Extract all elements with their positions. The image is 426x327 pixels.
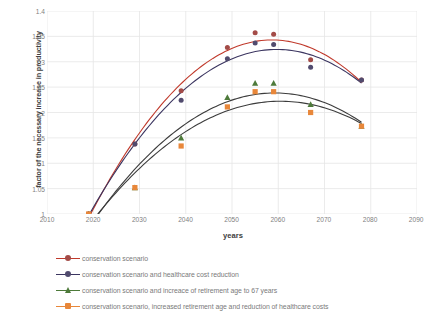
- x-tick-label: 2080: [353, 216, 387, 224]
- data-point-triangle: [271, 80, 277, 86]
- y-tick-label: 1.05: [21, 186, 45, 193]
- x-tick-label: 2020: [76, 216, 110, 224]
- data-point-square: [179, 143, 184, 148]
- legend-circle-marker-icon: [65, 255, 71, 261]
- legend-key-retirement-age-67: [56, 284, 80, 296]
- y-tick-label: 1.2: [21, 110, 45, 117]
- data-point-circle: [179, 88, 184, 93]
- x-tick-label: 2030: [122, 216, 156, 224]
- y-tick-label: 1.35: [21, 33, 45, 40]
- data-point-triangle: [224, 94, 230, 100]
- trend-curves: [89, 40, 362, 214]
- legend-key-healthcare-cost-reduction: [56, 268, 80, 280]
- data-point-square: [271, 89, 276, 94]
- legend-item-label: conservation scenario and increace of re…: [82, 287, 277, 294]
- data-point-square: [253, 89, 258, 94]
- data-point-circle: [271, 42, 276, 47]
- legend-square-marker-icon: [65, 303, 71, 309]
- data-point-circle: [132, 141, 137, 146]
- data-point-circle: [253, 30, 258, 35]
- chart-legend: conservation scenario conservation scena…: [56, 250, 416, 314]
- x-tick-label: 2040: [169, 216, 203, 224]
- data-point-markers: [86, 30, 365, 214]
- data-point-circle: [271, 32, 276, 37]
- plot-area: [47, 11, 417, 214]
- legend-triangle-marker-icon: [65, 287, 71, 293]
- legend-circle-marker-icon: [65, 271, 71, 277]
- legend-key-retirement-and-healthcare: [56, 300, 80, 312]
- x-tick-label: 2060: [261, 216, 295, 224]
- data-point-square: [86, 211, 91, 214]
- data-point-circle: [359, 78, 364, 83]
- gridlines: [47, 11, 417, 214]
- y-axis-tick-labels: 1.4 1.35 1.3 1.25 1.2 1.15 1.1 1.05 1: [15, 11, 45, 214]
- legend-item[interactable]: conservation scenario: [56, 250, 416, 266]
- data-point-square: [132, 185, 137, 190]
- data-point-triangle: [252, 80, 258, 86]
- productivity-factor-chart: factor of the necessary increase in prod…: [0, 0, 426, 327]
- y-tick-label: 1.25: [21, 84, 45, 91]
- y-tick-label: 1.1: [21, 160, 45, 167]
- x-tick-label: 2070: [307, 216, 341, 224]
- data-point-square: [308, 110, 313, 115]
- trend-line-1: [89, 49, 362, 214]
- data-point-circle: [308, 65, 313, 70]
- trend-line-0: [89, 40, 362, 214]
- legend-item[interactable]: conservation scenario and increace of re…: [56, 282, 416, 298]
- data-point-circle: [179, 98, 184, 103]
- legend-key-conservation-scenario: [56, 252, 80, 264]
- data-point-square: [225, 104, 230, 109]
- data-point-circle: [308, 57, 313, 62]
- x-tick-label: 2050: [215, 216, 249, 224]
- x-tick-label: 2090: [399, 216, 426, 224]
- legend-item[interactable]: conservation scenario, increased retirem…: [56, 298, 416, 314]
- x-axis-tick-labels: 2010 2020 2030 2040 2050 2060 2070 2080 …: [47, 216, 417, 228]
- legend-item-label: conservation scenario, increased retirem…: [82, 303, 328, 310]
- data-point-circle: [225, 45, 230, 50]
- legend-item-label: conservation scenario: [82, 255, 148, 262]
- y-tick-label: 1.15: [21, 135, 45, 142]
- data-point-square: [359, 124, 364, 129]
- legend-item-label: conservation scenario and healthcare cos…: [82, 271, 239, 278]
- y-tick-label: 1.4: [21, 8, 45, 15]
- x-axis-title: years: [40, 231, 426, 240]
- trend-line-3: [89, 101, 362, 214]
- x-tick-label: 2010: [30, 216, 64, 224]
- y-tick-label: 1.3: [21, 59, 45, 66]
- data-point-circle: [225, 56, 230, 61]
- plot-svg: [47, 11, 417, 214]
- data-point-circle: [253, 40, 258, 45]
- legend-item[interactable]: conservation scenario and healthcare cos…: [56, 266, 416, 282]
